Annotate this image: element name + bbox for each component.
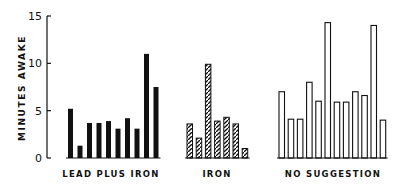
y-tick-label: 10 bbox=[28, 57, 42, 70]
bar bbox=[187, 124, 193, 158]
bar bbox=[224, 117, 230, 158]
bar bbox=[78, 146, 83, 158]
bar bbox=[316, 101, 322, 158]
bar bbox=[68, 109, 73, 158]
bar bbox=[279, 92, 285, 158]
bar bbox=[196, 138, 202, 158]
bar bbox=[325, 23, 331, 158]
bar bbox=[87, 123, 92, 158]
bar bbox=[116, 129, 121, 158]
bar bbox=[371, 25, 377, 158]
bar-group-lead-plus-iron bbox=[66, 54, 161, 158]
bar bbox=[288, 119, 294, 158]
bar bbox=[125, 118, 130, 158]
bar bbox=[154, 87, 159, 158]
bar-group-iron bbox=[185, 64, 250, 158]
bar bbox=[233, 124, 239, 158]
bar bbox=[205, 64, 211, 158]
bar bbox=[106, 121, 111, 158]
bar bbox=[307, 82, 313, 158]
bar bbox=[362, 96, 368, 158]
bar-group-no-suggestion bbox=[277, 23, 388, 158]
bar-groups bbox=[66, 23, 388, 158]
y-axis-label: MINUTES AWAKE bbox=[17, 35, 27, 141]
bar bbox=[297, 119, 303, 158]
y-axis: 051015 bbox=[28, 10, 51, 165]
group-label-iron: IRON bbox=[202, 169, 231, 179]
bar bbox=[242, 149, 248, 158]
bar bbox=[334, 102, 340, 158]
bar bbox=[135, 129, 140, 158]
bar bbox=[353, 92, 359, 158]
bar bbox=[380, 120, 386, 158]
bar-chart: 051015 MINUTES AWAKE LEAD PLUS IRON IRON… bbox=[0, 0, 398, 187]
y-tick-label: 0 bbox=[35, 152, 42, 165]
y-tick-label: 15 bbox=[28, 10, 42, 23]
bar bbox=[97, 123, 102, 158]
bar bbox=[144, 54, 149, 158]
group-label-lead-plus-iron: LEAD PLUS IRON bbox=[62, 169, 159, 179]
group-label-no-suggestion: NO SUGGESTION bbox=[285, 169, 381, 179]
bar bbox=[343, 102, 349, 158]
y-tick-label: 5 bbox=[35, 105, 42, 118]
bar bbox=[215, 121, 221, 158]
